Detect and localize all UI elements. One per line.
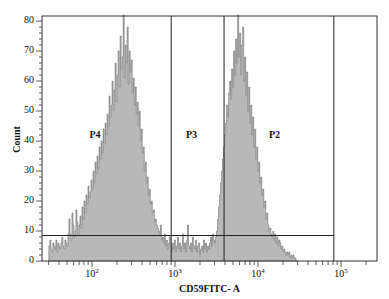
y-tick-label: 60 (14, 74, 34, 85)
x-tick-label: 105 (334, 267, 348, 279)
x-axis-label: CD59FITC- A (0, 283, 389, 294)
y-tick-label: 50 (14, 104, 34, 115)
y-tick-label: 40 (14, 134, 34, 145)
x-tick-label: 103 (168, 267, 182, 279)
gate-label-p3: P3 (186, 129, 197, 140)
y-tick-label: 70 (14, 44, 34, 55)
y-tick-label: 30 (14, 164, 34, 175)
y-tick-label: 0 (14, 254, 34, 265)
x-tick-label: 102 (85, 267, 99, 279)
y-tick-label: 10 (14, 224, 34, 235)
x-tick-label: 104 (251, 267, 265, 279)
y-tick-label: 20 (14, 194, 34, 205)
gate-label-p2: P2 (269, 129, 280, 140)
y-tick-label: 80 (14, 14, 34, 25)
histogram-plot (0, 0, 389, 299)
gate-label-p4: P4 (89, 129, 100, 140)
histogram-bars (49, 15, 297, 261)
